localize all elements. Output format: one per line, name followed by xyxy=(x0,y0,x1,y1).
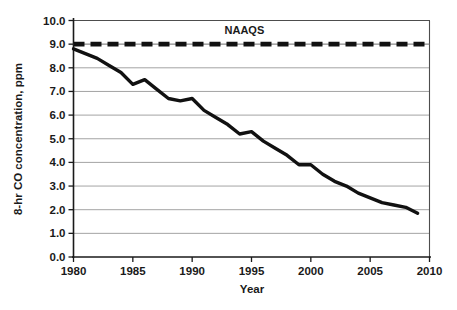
y-tick-label: 0.0 xyxy=(50,251,66,263)
y-tick-label: 3.0 xyxy=(50,180,66,192)
chart-background xyxy=(0,0,457,310)
x-tick-label: 2010 xyxy=(417,265,443,277)
x-tick-label: 2005 xyxy=(357,265,383,277)
x-tick-label: 1980 xyxy=(61,265,87,277)
y-tick-label: 9.0 xyxy=(50,38,66,50)
co-concentration-line-chart: 0.01.02.03.04.05.06.07.08.09.010.0 19801… xyxy=(0,0,457,310)
x-tick-label: 2000 xyxy=(298,265,324,277)
y-tick-label: 5.0 xyxy=(50,133,66,145)
y-tick-label: 1.0 xyxy=(50,227,66,239)
y-tick-label: 10.0 xyxy=(43,15,65,27)
y-tick-label: 7.0 xyxy=(50,85,66,97)
x-tick-label: 1995 xyxy=(239,265,265,277)
y-tick-label: 8.0 xyxy=(50,62,66,74)
x-tick-label: 1985 xyxy=(120,265,146,277)
figure-container: 0.01.02.03.04.05.06.07.08.09.010.0 19801… xyxy=(0,0,457,310)
naaqs-annotation-label: NAAQS xyxy=(225,24,265,36)
x-tick-label: 1990 xyxy=(179,265,205,277)
y-tick-label: 6.0 xyxy=(50,109,66,121)
y-tick-label: 4.0 xyxy=(50,156,66,168)
y-axis-title: 8-hr CO concentration, ppm xyxy=(12,63,24,215)
y-tick-label: 2.0 xyxy=(50,204,66,216)
x-axis-title: Year xyxy=(240,283,265,295)
